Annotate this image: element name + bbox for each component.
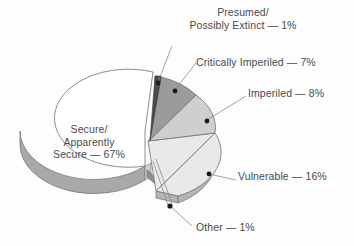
leader-line-extinct xyxy=(158,46,172,82)
label-other: Other — 1% xyxy=(196,221,255,234)
marker-dot-imperiled xyxy=(205,119,210,124)
marker-dot-vulnerable xyxy=(207,172,212,177)
leader-line-other-c xyxy=(170,206,192,226)
label-vulnerable-text: Vulnerable — 16% xyxy=(238,170,327,183)
label-secure-line3: Secure — 67% xyxy=(34,148,144,161)
marker-dot-extinct xyxy=(156,81,161,86)
label-secure-apparently-secure: Secure/ Apparently Secure — 67% xyxy=(34,123,144,161)
label-presumed-possibly-extinct: Presumed/ Possibly Extinct — 1% xyxy=(168,6,318,31)
pie-chart-figure: Presumed/ Possibly Extinct — 1% Critical… xyxy=(0,0,354,246)
label-imperiled: Imperiled — 8% xyxy=(248,87,324,100)
label-secure-line2: Apparently xyxy=(34,136,144,149)
leader-line-critically-imperiled xyxy=(175,63,196,90)
label-other-text: Other — 1% xyxy=(196,221,255,234)
label-secure-line1: Secure/ xyxy=(34,123,144,136)
label-vulnerable: Vulnerable — 16% xyxy=(238,170,327,183)
label-critically-imperiled: Critically Imperiled — 7% xyxy=(196,56,316,69)
label-extinct-line2: Possibly Extinct — 1% xyxy=(168,19,318,32)
leader-line-vulnerable xyxy=(209,174,236,180)
label-imperiled-text: Imperiled — 8% xyxy=(248,87,324,100)
label-critically-imperiled-text: Critically Imperiled — 7% xyxy=(196,56,316,69)
leader-line-imperiled xyxy=(207,96,246,120)
marker-dot-critically-imperiled xyxy=(173,89,178,94)
label-extinct-line1: Presumed/ xyxy=(168,6,318,19)
marker-dot-other xyxy=(167,203,172,208)
